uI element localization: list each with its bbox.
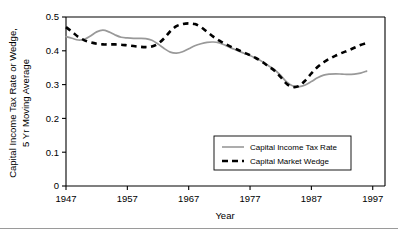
footer-divider	[0, 228, 398, 229]
series-line-capital-income-tax-rate	[66, 30, 367, 87]
y-tick-label: 0.1	[46, 147, 59, 158]
x-tick-label: 1997	[362, 193, 383, 204]
y-tick-label: 0.5	[46, 11, 59, 22]
y-tick-label: 0.4	[46, 45, 59, 56]
y-axis-title-line1: Capital Income Tax Rate or Wedge,	[7, 28, 18, 178]
x-axis-tick-labels: 194719571967197719871997	[55, 193, 383, 204]
chart-figure: 00.10.20.30.40.5 19471957196719771987199…	[0, 0, 398, 233]
x-tick-label: 1957	[117, 193, 138, 204]
x-tick-label: 1987	[301, 193, 322, 204]
x-axis-title: Year	[215, 210, 234, 221]
y-axis-tick-labels: 00.10.20.30.40.5	[46, 11, 59, 191]
y-axis-ticks	[62, 17, 66, 186]
y-axis-title-line2: 5 Yr Moving Average	[20, 59, 31, 147]
legend-label-capital-market-wedge: Capital Market Wedge	[250, 157, 330, 166]
x-tick-label: 1977	[239, 193, 260, 204]
x-tick-label: 1947	[55, 193, 76, 204]
data-series-layer	[66, 23, 367, 87]
y-tick-label: 0	[54, 180, 59, 191]
line-chart: 00.10.20.30.40.5 19471957196719771987199…	[0, 0, 398, 233]
y-tick-label: 0.2	[46, 113, 59, 124]
legend-label-capital-income-tax-rate: Capital Income Tax Rate	[250, 143, 338, 152]
x-axis-ticks	[66, 186, 373, 190]
x-tick-label: 1967	[178, 193, 199, 204]
chart-legend: Capital Income Tax Rate Capital Market W…	[214, 136, 351, 170]
y-tick-label: 0.3	[46, 79, 59, 90]
y-axis-title: Capital Income Tax Rate or Wedge, 5 Yr M…	[7, 28, 31, 178]
